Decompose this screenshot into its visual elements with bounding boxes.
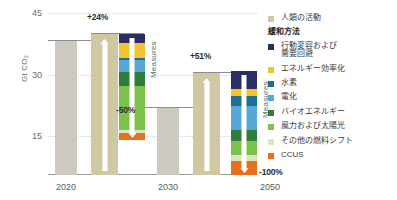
x-tick-2020: 2020	[41, 182, 91, 192]
legend-swatch-behaviour	[268, 44, 274, 50]
baseline-bar-2020	[55, 40, 77, 175]
y-tick-45: 45	[12, 8, 42, 18]
legend-item-electrification[interactable]: 電化	[268, 93, 396, 101]
legend-swatch-efficiency	[268, 67, 274, 73]
growth-arrow-2030	[102, 43, 107, 171]
legend-item-otherfuel[interactable]: その他の燃料シフト	[268, 137, 396, 145]
legend-item-efficiency[interactable]: エネルギー効率化	[268, 65, 396, 73]
legend-item-windsolar[interactable]: 風力および太陽光	[268, 122, 396, 130]
growth-label-2030: +24%	[87, 12, 108, 22]
legend-label-electrification: 電化	[281, 93, 297, 101]
mitigation-stack-2050	[231, 71, 257, 175]
growth-arrow-2050	[204, 82, 209, 171]
legend-item-activity[interactable]: 人類の活動	[268, 14, 396, 22]
legend-label-hydrogen: 水素	[281, 79, 297, 87]
legend-label-efficiency: エネルギー効率化	[281, 65, 345, 73]
legend-swatch-hydrogen	[268, 81, 274, 87]
x-tick-2030: 2030	[143, 182, 193, 192]
x-tick-2050: 2050	[245, 182, 295, 192]
legend-label-windsolar: 風力および太陽光	[281, 122, 345, 130]
legend-item-hydrogen[interactable]: 水素	[268, 79, 396, 87]
legend-label-ccus: CCUS	[281, 151, 304, 159]
legend: 人類の活動 緩和方法 行動変容および 需要回避 エネルギー効率化 水素 電化 バ…	[268, 14, 396, 165]
chart-root: Gt CO₂ 45 30 15 +24% -50% Measures +51%	[0, 0, 397, 200]
legend-item-bioenergy[interactable]: バイオエネルギー	[268, 108, 396, 116]
growth-bar-2050	[193, 72, 220, 175]
legend-swatch-otherfuel	[268, 139, 274, 145]
growth-label-2050: +51%	[190, 51, 211, 61]
legend-label-behaviour: 行動変容および 需要回避	[281, 42, 337, 59]
measures-label-2030: Measures	[149, 41, 158, 78]
mitigation-label-2050: -100%	[259, 167, 283, 177]
legend-swatch-bioenergy	[268, 110, 274, 116]
legend-swatch-ccus	[268, 153, 274, 159]
legend-heading: 緩和方法	[268, 28, 396, 36]
connector-2020	[48, 40, 91, 41]
legend-label-activity: 人類の活動	[281, 14, 321, 22]
connector-2030-bottom	[145, 107, 193, 108]
baseline-bar-2030	[157, 107, 179, 175]
growth-bar-2030	[91, 33, 118, 175]
mitigation-arrow-2030	[130, 38, 135, 134]
y-tick-15: 15	[12, 131, 42, 141]
legend-swatch-windsolar	[268, 124, 274, 130]
y-axis-title: Gt CO₂	[20, 39, 29, 99]
mitigation-stack-2030	[119, 34, 145, 140]
legend-swatch-electrification	[268, 95, 274, 101]
x-axis-line	[48, 174, 257, 175]
mitigation-label-2030: -50%	[116, 105, 135, 115]
gridline-15	[48, 136, 257, 137]
legend-label-otherfuel: その他の燃料シフト	[281, 137, 353, 145]
legend-item-behaviour[interactable]: 行動変容および 需要回避	[268, 42, 396, 59]
legend-swatch-activity	[268, 16, 274, 22]
y-tick-30: 30	[12, 70, 42, 80]
legend-item-ccus[interactable]: CCUS	[268, 151, 396, 159]
legend-label-bioenergy: バイオエネルギー	[281, 108, 345, 116]
mitigation-arrow-2050	[242, 75, 247, 169]
gridline-45	[48, 13, 257, 14]
